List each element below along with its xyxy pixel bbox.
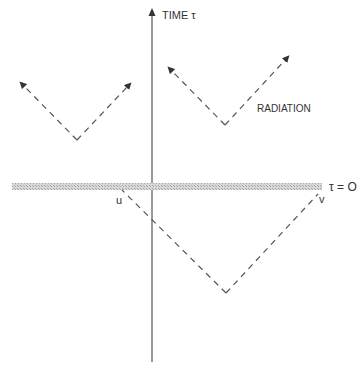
spacetime-diagram: TIME τ τ = O RADIATION u v bbox=[0, 0, 362, 370]
axis-label: TIME τ bbox=[162, 9, 196, 21]
point-u-label: u bbox=[116, 194, 122, 206]
light-cone-right bbox=[170, 58, 287, 125]
boundary-label: τ = O bbox=[329, 180, 357, 194]
boundary-band bbox=[12, 183, 322, 190]
axis-arrow-icon bbox=[149, 8, 156, 16]
point-v-label: v bbox=[319, 193, 325, 205]
light-cone-left bbox=[22, 84, 129, 140]
radiation-label: RADIATION bbox=[257, 103, 311, 114]
